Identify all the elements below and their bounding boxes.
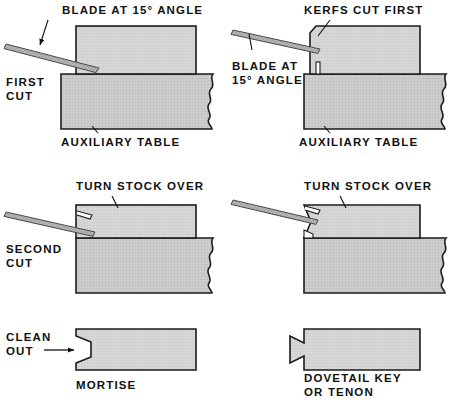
blade-angle-label-line1: BLADE AT	[232, 60, 298, 72]
kerf-slot	[316, 62, 320, 74]
stage-label-clean: CLEAN	[6, 331, 51, 343]
stage-label-first-cut: CUT	[6, 90, 33, 102]
stock-block	[310, 26, 420, 74]
auxiliary-table-label: AUXILIARY TABLE	[299, 136, 418, 148]
turn-stock-label: TURN STOCK OVER	[304, 180, 432, 192]
blade-angle-label-line2: 15° ANGLE	[232, 74, 303, 86]
dovetail-caption-line2: OR TENON	[304, 386, 374, 398]
mortise-caption: MORTISE	[76, 379, 136, 391]
auxiliary-table-shape	[76, 238, 213, 293]
auxiliary-table-shape	[61, 74, 213, 129]
dovetail-diagram: BLADE AT 15° ANGLE FIRST CUT AUXILIARY T…	[0, 0, 455, 400]
auxiliary-table-label: AUXILIARY TABLE	[61, 136, 180, 148]
dovetail-key-block	[290, 329, 420, 370]
turn-stock-label: TURN STOCK OVER	[76, 180, 204, 192]
stage-label-second-cut: CUT	[6, 257, 33, 269]
auxiliary-table-shape	[304, 74, 446, 129]
kerfs-label: KERFS CUT FIRST	[304, 4, 423, 16]
stage-label-second: SECOND	[6, 243, 62, 255]
stage-label-out: OUT	[6, 345, 34, 357]
stock-block	[304, 205, 420, 238]
blade-angle-label: BLADE AT 15° ANGLE	[62, 4, 203, 16]
stage-label-first: FIRST	[6, 76, 45, 88]
mortise-block	[76, 329, 196, 370]
diagram-canvas: BLADE AT 15° ANGLE FIRST CUT AUXILIARY T…	[0, 0, 455, 400]
dovetail-caption-line1: DOVETAIL KEY	[304, 372, 402, 384]
auxiliary-table-shape	[304, 238, 446, 293]
